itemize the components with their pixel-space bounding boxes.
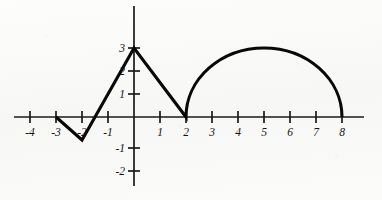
x-tick-label: -1 [103, 126, 113, 138]
y-tick-label: 3 [118, 42, 125, 54]
piecewise-curve [56, 48, 342, 140]
x-tick-label: 2 [183, 126, 189, 138]
x-tick-label: 6 [287, 126, 293, 138]
x-tick-label: 4 [235, 126, 241, 138]
x-tick-label: 3 [208, 126, 215, 138]
x-tick-label: 8 [339, 126, 345, 138]
x-tick-label: 1 [157, 126, 163, 138]
x-tick-label: 5 [261, 126, 267, 138]
x-tick-label: 7 [313, 126, 320, 138]
x-tick-label: -3 [51, 126, 61, 138]
y-tick-label: -2 [115, 165, 125, 177]
y-tick-labels-group: -2 -1 1 2 3 [115, 42, 125, 177]
y-tick-label: 1 [119, 88, 125, 100]
plot-svg: -4 -3 -2 -1 1 2 3 4 5 6 7 8 -2 -1 1 2 3 [0, 0, 382, 200]
x-tick-label: -4 [25, 126, 35, 138]
graph-figure: -4 -3 -2 -1 1 2 3 4 5 6 7 8 -2 -1 1 2 3 [0, 0, 382, 200]
y-tick-label: -1 [115, 142, 125, 154]
